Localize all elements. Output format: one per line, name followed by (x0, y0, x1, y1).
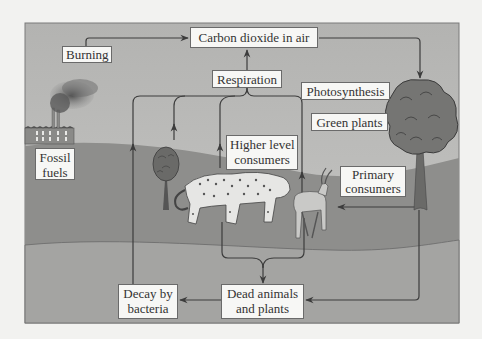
node-burning: Burning (62, 46, 112, 63)
node-green-plants-text: Green plants (316, 115, 382, 130)
node-dead-animals-plants: Dead animals and plants (221, 284, 304, 319)
node-photosynthesis-text: Photosynthesis (306, 84, 384, 99)
node-higher-level-consumers: Higher level consumers (226, 135, 298, 170)
node-dead-line1: Dead animals (225, 286, 300, 301)
node-respiration-text: Respiration (217, 72, 277, 87)
node-fossil-fuels: Fossil fuels (35, 148, 75, 180)
node-photosynthesis: Photosynthesis (301, 82, 390, 100)
node-higher-line2: consumers (230, 152, 294, 167)
node-burning-text: Burning (66, 47, 109, 62)
node-carbon-dioxide-text: Carbon dioxide in air (199, 30, 310, 45)
node-decay-line2: bacteria (122, 301, 174, 316)
node-decay-line1: Decay by (122, 286, 174, 301)
node-fossil-line2: fuels (39, 165, 71, 180)
node-dead-line2: and plants (225, 301, 300, 316)
node-higher-line1: Higher level (230, 137, 294, 152)
node-decay-by-bacteria: Decay by bacteria (118, 284, 178, 319)
node-fossil-line1: Fossil (39, 150, 71, 165)
node-respiration: Respiration (212, 70, 282, 88)
node-carbon-dioxide: Carbon dioxide in air (190, 27, 318, 48)
node-primary-line1: Primary (344, 168, 402, 182)
node-primary-consumers: Primary consumers (340, 166, 406, 197)
carbon-cycle-diagram: Carbon dioxide in air Burning Respiratio… (0, 0, 482, 339)
node-primary-line2: consumers (344, 182, 402, 196)
node-green-plants: Green plants (311, 113, 388, 131)
